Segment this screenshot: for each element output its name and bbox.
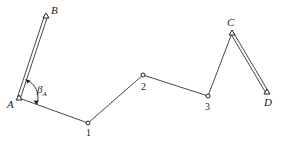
label-2: 2 xyxy=(141,81,146,92)
known-edge-cd xyxy=(231,32,268,93)
traverse-diagram: B A C D 1 2 3 βA xyxy=(0,0,281,153)
known-edge-ab xyxy=(18,16,48,99)
circle-marker-3 xyxy=(206,94,210,98)
label-c: C xyxy=(227,16,235,28)
traverse-path xyxy=(19,33,232,123)
label-d: D xyxy=(263,96,272,108)
triangle-marker-b xyxy=(43,13,49,18)
circle-marker-2 xyxy=(141,73,145,77)
triangle-marker-c xyxy=(229,30,235,35)
label-b: B xyxy=(51,4,58,16)
label-a: A xyxy=(6,98,14,110)
label-3: 3 xyxy=(205,101,210,112)
label-1: 1 xyxy=(86,127,91,138)
circle-marker-1 xyxy=(86,121,90,125)
